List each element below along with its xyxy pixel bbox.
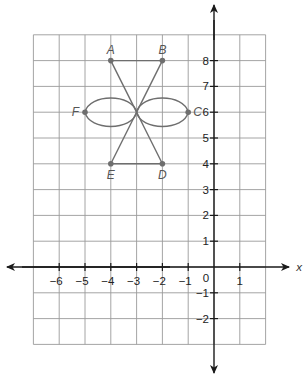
x-tick-label: 1 (237, 275, 243, 287)
y-tick-label: 4 (203, 158, 210, 170)
x-tick-label: −5 (75, 275, 88, 287)
point-label-A: A (106, 43, 115, 57)
point-label-C: C (193, 105, 202, 119)
y-tick-label: 2 (203, 209, 209, 221)
point-label-B: B (158, 43, 166, 57)
x-tick-label: −1 (179, 275, 192, 287)
point-B (160, 58, 166, 64)
labels: −6−5−4−3−2−1187654321−1−20xABCDEF (50, 43, 303, 325)
y-tick-label: 7 (203, 80, 209, 92)
grid (33, 35, 265, 345)
point-label-D: D (158, 168, 167, 182)
x-tick-label: −4 (101, 275, 115, 287)
point-C (185, 109, 191, 115)
point-label-F: F (72, 105, 80, 119)
x-tick-label: −6 (50, 275, 63, 287)
y-tick-label: −2 (196, 313, 209, 325)
y-tick-label: −1 (196, 287, 209, 299)
point-D (160, 161, 166, 167)
point-label-E: E (107, 168, 116, 182)
y-tick-label: 3 (203, 184, 209, 196)
y-tick-label: 8 (203, 55, 209, 67)
origin-label: 0 (203, 272, 209, 284)
point-A (108, 58, 114, 64)
x-tick-label: −2 (153, 275, 166, 287)
x-tick-label: −3 (127, 275, 140, 287)
x-axis-label: x (295, 261, 303, 273)
y-tick-label: 1 (203, 235, 209, 247)
point-E (108, 161, 114, 167)
point-F (82, 109, 88, 115)
coordinate-plane: −6−5−4−3−2−1187654321−1−20xABCDEF (0, 0, 307, 384)
y-tick-label: 6 (203, 106, 209, 118)
y-tick-label: 5 (203, 132, 209, 144)
